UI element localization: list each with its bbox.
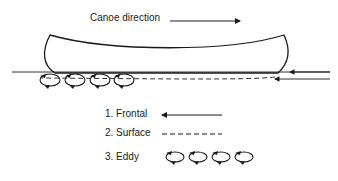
frontal-flow-arrows bbox=[275, 72, 330, 79]
canoe-hull bbox=[45, 35, 288, 73]
canoe-diagram bbox=[0, 0, 338, 181]
surface-flow-dashed bbox=[40, 77, 275, 79]
legend-surface-label: 2. Surface bbox=[105, 127, 151, 138]
eddy-loops bbox=[40, 74, 134, 86]
legend-eddy-label: 3. Eddy bbox=[105, 151, 139, 162]
legend-frontal-label: 1. Frontal bbox=[105, 108, 147, 119]
